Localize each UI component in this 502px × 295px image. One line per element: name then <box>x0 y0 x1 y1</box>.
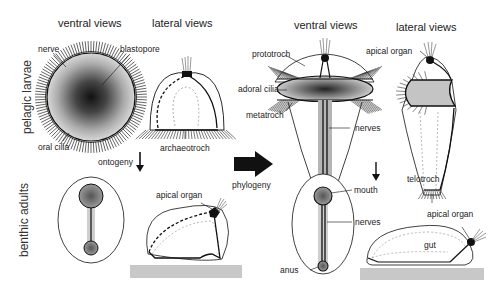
phylogeny-arrow <box>234 151 273 177</box>
header-ventral-views-right: ventral views <box>294 19 358 32</box>
label-metatroch: metatroch <box>246 110 284 120</box>
label-adoral-cilia: adoral cilia <box>238 84 279 94</box>
label-oral-cilia: oral cilia <box>38 142 69 152</box>
label-anus: anus <box>280 265 298 275</box>
right-adult-ventral <box>292 174 354 274</box>
header-lateral-views-right: lateral views <box>396 21 457 34</box>
row-label-benthic-adults: benthic adults <box>17 183 31 257</box>
right-adult-lateral <box>360 225 486 280</box>
label-telotroch: telotroch <box>407 174 440 184</box>
left-larva-lateral <box>136 56 236 139</box>
label-apical-organ-left: apical organ <box>156 190 202 200</box>
label-gut: gut <box>424 240 436 250</box>
ontogeny-arrow-left <box>136 152 144 172</box>
header-lateral-views-left: lateral views <box>152 17 213 30</box>
left-adult-ventral <box>58 177 124 263</box>
label-apical-organ-right-top: apical organ <box>366 46 412 56</box>
phylogeny-label: phylogeny <box>232 180 271 190</box>
diagram-canvas <box>0 0 502 295</box>
label-blastopore: blastopore <box>120 44 160 54</box>
label-nerves-adult: nerves <box>355 217 381 227</box>
caption-clipped <box>14 288 214 295</box>
left-adult-lateral <box>130 198 242 278</box>
label-nerves-larva: nerves <box>355 123 381 133</box>
label-archaeotroch: archaeotroch <box>160 143 210 153</box>
ontogeny-arrow-right <box>372 162 380 181</box>
label-apical-organ-right-bottom: apical organ <box>427 209 473 219</box>
label-nerve: nerve <box>38 44 59 54</box>
ontogeny-label: ontogeny <box>98 157 133 167</box>
row-label-pelagic-larvae: pelagic larvae <box>20 60 34 134</box>
label-prototroch: prototroch <box>252 49 290 59</box>
header-ventral-views-left: ventral views <box>58 17 122 30</box>
left-larva-ventral <box>35 41 147 153</box>
label-mouth: mouth <box>354 185 378 195</box>
